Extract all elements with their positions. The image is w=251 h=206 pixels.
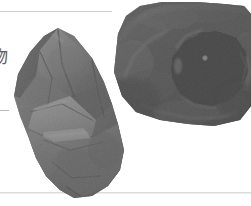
left-specimen	[10, 24, 130, 204]
scanned-page: 物	[0, 0, 251, 206]
specimen-photograph	[0, 0, 251, 206]
photo-canvas	[0, 0, 251, 206]
right-specimen	[100, 0, 251, 130]
